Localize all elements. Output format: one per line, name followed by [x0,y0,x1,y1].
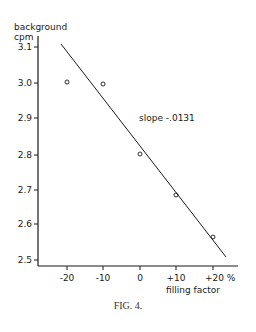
figure-caption: FIG. 4. [0,300,256,311]
y-axis-label-line1: background [14,22,67,32]
x-tick-label: +10 [167,273,186,283]
data-point [138,152,142,156]
data-point [101,82,105,86]
chart: background cpm 3.1 3.0 2.9 2.8 2.7 2.6 2… [0,0,256,332]
x-tick-label: -20 [60,273,75,283]
y-axis-label-line2: cpm [14,32,33,42]
regression-line [61,44,226,257]
y-tick-label: 2.8 [18,150,33,160]
data-point [211,235,215,239]
y-tick-label: 2.7 [18,185,32,195]
y-tick-label: 2.9 [18,113,33,123]
x-ticks: -20 -10 0 +10 +20 % [60,266,236,283]
slope-annotation: slope -.0131 [139,113,195,123]
data-points [65,80,215,239]
y-ticks: 3.1 3.0 2.9 2.8 2.7 2.6 2.5 [18,42,38,265]
x-tick-label: 0 [137,273,143,283]
x-tick-label: -10 [96,273,111,283]
data-point [65,80,69,84]
x-tick-label: +20 % [205,273,236,283]
y-tick-label: 3.1 [18,42,32,52]
x-axis-label: filling factor [166,285,220,295]
y-tick-label: 2.6 [18,219,33,229]
y-tick-label: 3.0 [18,78,33,88]
y-tick-label: 2.5 [18,255,32,265]
